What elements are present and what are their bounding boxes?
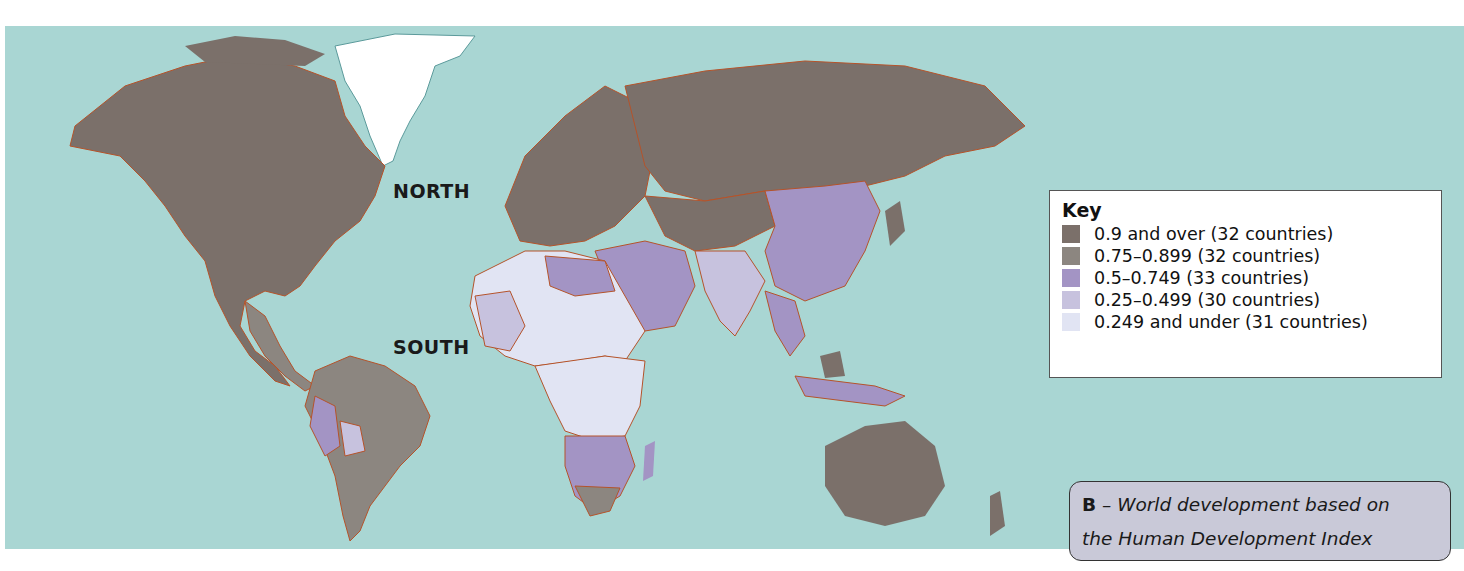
north-america [70,56,385,386]
caption-letter: B [1082,494,1096,515]
legend-item: 0.249 and under (31 countries) [1062,311,1429,333]
label-north: NORTH [393,180,470,202]
legend-swatch [1062,269,1080,287]
caption-line1: World development based on [1117,494,1390,515]
legend-label: 0.9 and over (32 countries) [1094,224,1333,244]
legend-heading: Key [1062,199,1429,221]
indonesia [795,376,905,406]
legend-swatch [1062,247,1080,265]
southeast-asia [765,291,805,356]
borneo [820,351,845,378]
legend-swatch [1062,291,1080,309]
central-asia [645,191,775,251]
south-asia [695,251,765,336]
russia [625,61,1025,201]
arctic-islands [185,36,325,66]
legend-swatch [1062,313,1080,331]
japan [885,201,905,246]
cropped-header-text [0,0,1464,24]
legend-item: 0.9 and over (32 countries) [1062,223,1429,245]
legend-label: 0.249 and under (31 countries) [1094,312,1368,332]
caption-line2: the Human Development Index [1082,528,1373,549]
figure-caption: B – World development based on the Human… [1069,481,1451,561]
label-south: SOUTH [393,336,470,358]
legend-item: 0.25–0.499 (30 countries) [1062,289,1429,311]
legend-item: 0.5–0.749 (33 countries) [1062,267,1429,289]
legend-swatch [1062,225,1080,243]
legend-label: 0.5–0.749 (33 countries) [1094,268,1309,288]
madagascar [643,441,655,481]
legend-item: 0.75–0.899 (32 countries) [1062,245,1429,267]
caption-dash: – [1096,494,1117,515]
legend-label: 0.25–0.499 (30 countries) [1094,290,1320,310]
australia [825,421,945,526]
map-legend: Key 0.9 and over (32 countries) 0.75–0.8… [1049,190,1442,378]
legend-label: 0.75–0.899 (32 countries) [1094,246,1320,266]
central-africa [535,356,645,441]
new-zealand [990,491,1005,536]
china [765,181,880,301]
